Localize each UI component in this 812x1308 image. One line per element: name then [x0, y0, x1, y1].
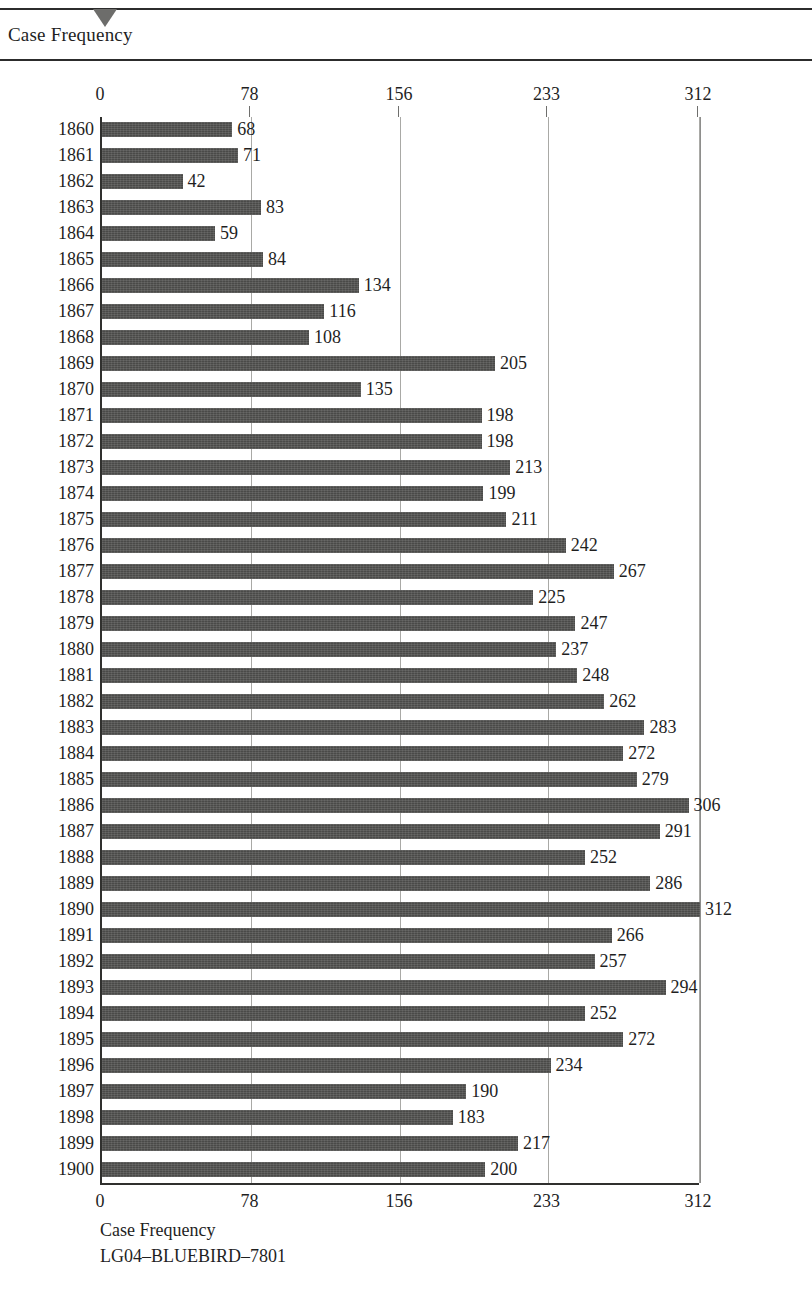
bar-row: 1875211	[0, 507, 812, 533]
bar-category-label: 1875	[58, 509, 94, 530]
bar-category-label: 1896	[58, 1055, 94, 1076]
bar	[102, 122, 232, 137]
bar-category-label: 1860	[58, 119, 94, 140]
bar-row: 186584	[0, 247, 812, 273]
bar-value-label: 68	[237, 119, 255, 140]
bar-value-label: 283	[649, 717, 676, 738]
bar-value-label: 306	[694, 795, 721, 816]
x-tick-mark-78	[249, 106, 250, 117]
bar-category-label: 1888	[58, 847, 94, 868]
bar-value-label: 183	[458, 1107, 485, 1128]
bar-row: 186383	[0, 195, 812, 221]
bar-value-label: 312	[705, 899, 732, 920]
bar-value-label: 267	[619, 561, 646, 582]
bar-row: 1866134	[0, 273, 812, 299]
bar-value-label: 198	[487, 405, 514, 426]
bar-category-label: 1891	[58, 925, 94, 946]
page-title: Case Frequency	[8, 24, 133, 46]
bar-row: 1885279	[0, 767, 812, 793]
record-id-caption: LG04–BLUEBIRD–7801	[100, 1243, 700, 1269]
bar-category-label: 1864	[58, 223, 94, 244]
bar	[102, 564, 614, 579]
bar-row: 1878225	[0, 585, 812, 611]
bar	[102, 616, 575, 631]
bar	[102, 1006, 585, 1021]
bar-value-label: 198	[487, 431, 514, 452]
bar-value-label: 272	[628, 1029, 655, 1050]
x-tick-label-top-312: 312	[685, 84, 712, 105]
bar-value-label: 199	[488, 483, 515, 504]
x-axis-baseline	[100, 1183, 699, 1185]
x-tick-label-top-156: 156	[386, 84, 413, 105]
bar	[102, 980, 666, 995]
x-tick-label-bottom-78: 78	[241, 1191, 259, 1212]
x-tick-label-top-233: 233	[533, 84, 560, 105]
bar-row: 1870135	[0, 377, 812, 403]
bar	[102, 746, 623, 761]
bar-value-label: 234	[556, 1055, 583, 1076]
bar	[102, 330, 309, 345]
x-tick-mark-233	[546, 106, 547, 117]
bar	[102, 798, 689, 813]
bar-category-label: 1865	[58, 249, 94, 270]
bar	[102, 226, 215, 241]
bar-row: 1881248	[0, 663, 812, 689]
bar	[102, 1136, 518, 1151]
bar-chart: 078156233312 186068186171186242186383186…	[0, 62, 812, 1308]
bar-category-label: 1897	[58, 1081, 94, 1102]
bar-category-label: 1886	[58, 795, 94, 816]
bar-row: 1871198	[0, 403, 812, 429]
bar	[102, 772, 637, 787]
bar-value-label: 205	[500, 353, 527, 374]
x-tick-mark-312	[697, 106, 698, 117]
bar-value-label: 108	[314, 327, 341, 348]
bar-row: 1894252	[0, 1001, 812, 1027]
x-tick-label-bottom-156: 156	[386, 1191, 413, 1212]
bar-category-label: 1894	[58, 1003, 94, 1024]
bar-row: 1890312	[0, 897, 812, 923]
bar-value-label: 266	[617, 925, 644, 946]
bar	[102, 1084, 466, 1099]
bar-category-label: 1880	[58, 639, 94, 660]
header-bottom-rule	[0, 59, 812, 61]
bar	[102, 460, 510, 475]
bar	[102, 824, 660, 839]
bar-category-label: 1873	[58, 457, 94, 478]
bar-row: 1896234	[0, 1053, 812, 1079]
bar	[102, 928, 612, 943]
bar	[102, 1058, 551, 1073]
bar	[102, 694, 604, 709]
bar	[102, 356, 495, 371]
bar-row: 1893294	[0, 975, 812, 1001]
bar-row: 1876242	[0, 533, 812, 559]
bar-row: 186242	[0, 169, 812, 195]
bar-category-label: 1892	[58, 951, 94, 972]
bar-value-label: 242	[571, 535, 598, 556]
bar	[102, 850, 585, 865]
bar-category-label: 1883	[58, 717, 94, 738]
bar	[102, 668, 577, 683]
bar-category-label: 1870	[58, 379, 94, 400]
bar-row: 1897190	[0, 1079, 812, 1105]
bar-value-label: 252	[590, 847, 617, 868]
bar-value-label: 135	[366, 379, 393, 400]
x-axis-caption: Case Frequency	[100, 1217, 700, 1243]
bar-value-label: 286	[655, 873, 682, 894]
bar-value-label: 71	[243, 145, 261, 166]
bar-value-label: 42	[188, 171, 206, 192]
bar-category-label: 1889	[58, 873, 94, 894]
bar	[102, 876, 650, 891]
bar	[102, 382, 361, 397]
bar-row: 1879247	[0, 611, 812, 637]
bar-row: 1880237	[0, 637, 812, 663]
bar-category-label: 1890	[58, 899, 94, 920]
bar-value-label: 83	[266, 197, 284, 218]
bar-value-label: 213	[515, 457, 542, 478]
bar-category-label: 1881	[58, 665, 94, 686]
bar-row: 1883283	[0, 715, 812, 741]
bar-category-label: 1877	[58, 561, 94, 582]
bar-row: 1895272	[0, 1027, 812, 1053]
bar-value-label: 84	[268, 249, 286, 270]
bar	[102, 902, 700, 917]
bar	[102, 408, 482, 423]
